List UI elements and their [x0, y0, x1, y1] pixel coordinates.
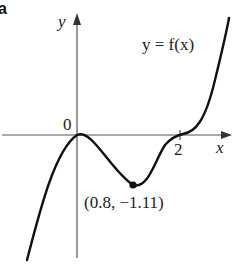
y-axis-label: y: [58, 13, 66, 30]
origin-label: 0: [63, 116, 72, 133]
minimum-point-label: (0.8, −1.11): [84, 194, 164, 211]
function-curve: [27, 18, 229, 260]
function-graph: [0, 0, 238, 264]
x-axis-label: x: [216, 139, 224, 156]
minimum-point-marker: [129, 181, 136, 188]
x-tick-label-2: 2: [174, 141, 183, 158]
y-axis-arrow-icon: [73, 13, 81, 25]
function-label: y = f(x): [142, 36, 194, 53]
